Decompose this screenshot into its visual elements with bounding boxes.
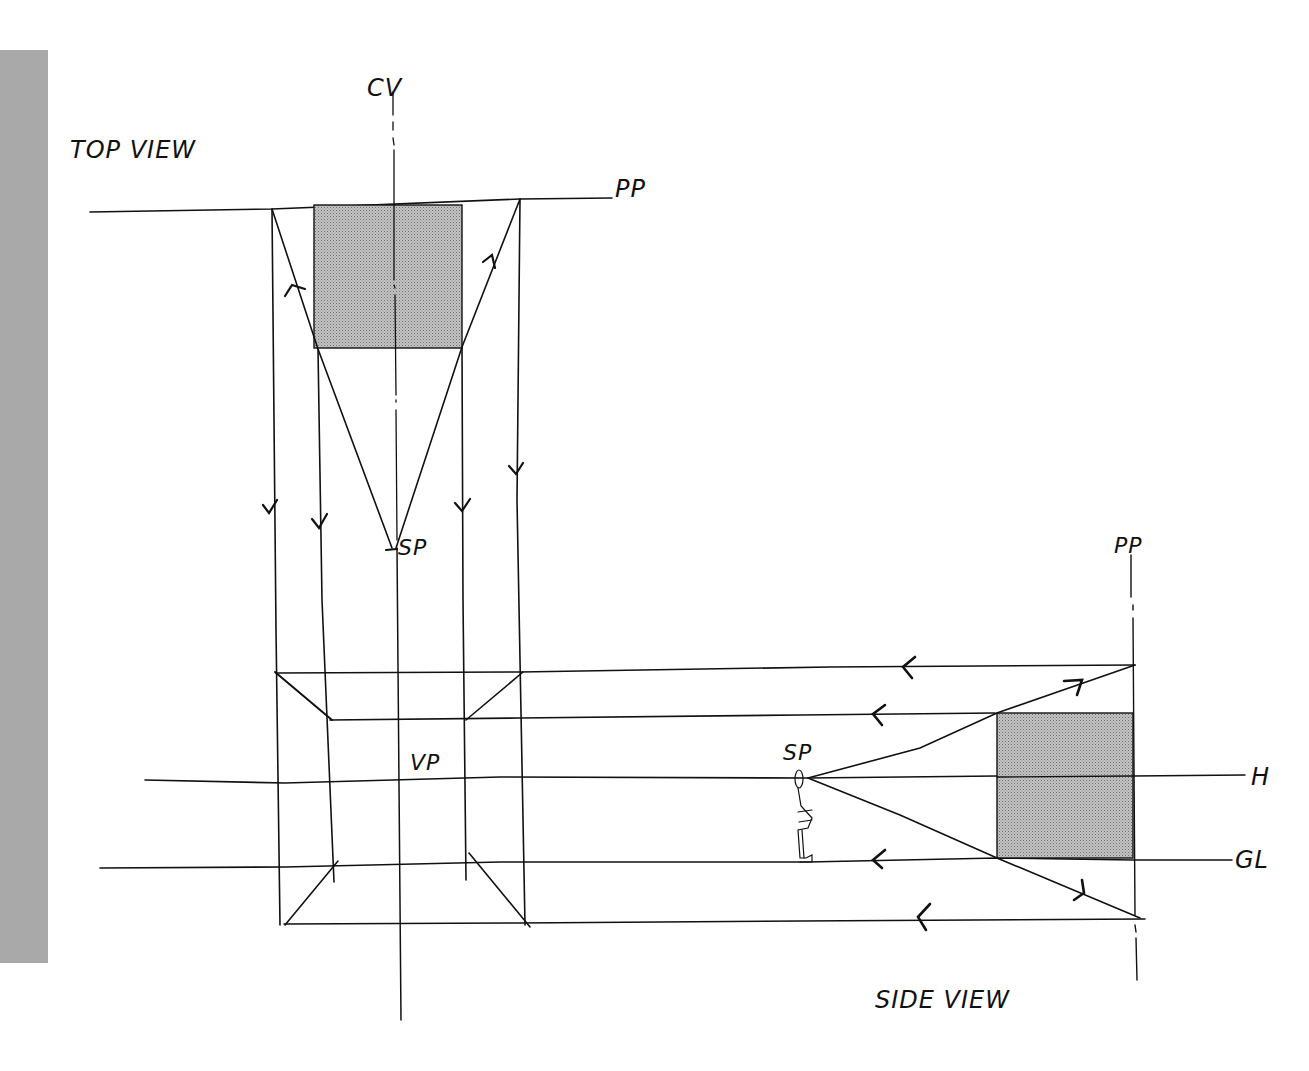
pp-top-label: PP xyxy=(615,175,646,203)
projector-outer-right xyxy=(517,199,525,925)
projector-inner-right xyxy=(462,347,466,880)
projector-outer-left xyxy=(272,209,280,925)
top-view-label: TOP VIEW xyxy=(70,136,196,164)
diag-bottom-left xyxy=(285,861,338,925)
cv-label: CV xyxy=(367,74,403,102)
top-view-object-square xyxy=(314,205,462,348)
projector-top-line xyxy=(276,665,1135,673)
ground-line-label: GL xyxy=(1235,846,1269,874)
sp-side-label: SP xyxy=(783,740,812,765)
sp-top-label: SP xyxy=(398,535,427,560)
diag-top-right xyxy=(466,672,523,720)
center-of-vision-lower xyxy=(397,548,401,1020)
projector-bottom-line xyxy=(284,919,1145,924)
side-view-object-square xyxy=(997,713,1133,858)
diag-bottom-right xyxy=(469,853,530,927)
ground-line xyxy=(100,858,1232,868)
vp-label: VP xyxy=(410,750,440,775)
diag-top-left xyxy=(275,672,332,720)
perspective-diagram: TOP VIEW CV PP SP PP VP SP H GL SIDE VIE… xyxy=(0,0,1309,1071)
projector-inner-left xyxy=(318,349,334,882)
pp-side-label: PP xyxy=(1114,533,1143,558)
side-view-label: SIDE VIEW xyxy=(875,986,1010,1014)
horizon-label: H xyxy=(1251,763,1270,791)
projector-roof-line xyxy=(330,713,995,720)
observer-figure-icon xyxy=(795,770,812,862)
